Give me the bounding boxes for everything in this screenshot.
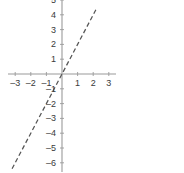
x-tick-label: 3: [106, 79, 111, 88]
x-tick-label: –2: [26, 79, 36, 88]
x-tick-label: 1: [75, 79, 80, 88]
y-tick-label: 4: [40, 10, 56, 19]
y-tick-label: –1: [40, 84, 56, 93]
y-tick-label: –5: [40, 144, 56, 153]
y-tick-label: –4: [40, 129, 56, 138]
coordinate-plane-graph: –3–2–1123 54321–1–2–3–4–5–6: [0, 0, 184, 173]
y-tick-label: 1: [40, 55, 56, 64]
y-tick-label: –6: [40, 158, 56, 167]
y-tick-label: 2: [40, 40, 56, 49]
x-tick-label: –3: [10, 79, 20, 88]
y-tick-label: 3: [40, 25, 56, 34]
y-tick-label: 5: [40, 0, 56, 5]
x-tick-label: 2: [91, 79, 96, 88]
y-tick-label: –3: [40, 114, 56, 123]
y-tick-label: –2: [40, 99, 56, 108]
